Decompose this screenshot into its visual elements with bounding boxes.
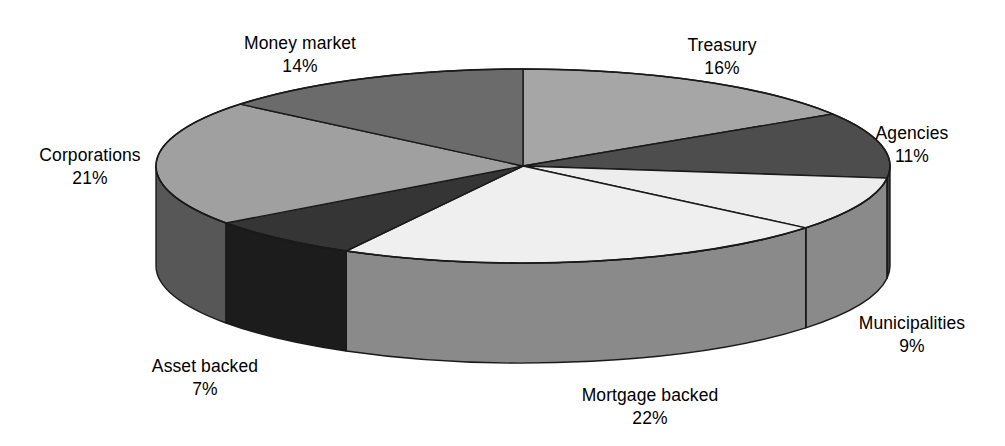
pie-label-name: Treasury [687, 34, 756, 57]
pie-label-value: 21% [39, 167, 140, 190]
pie-label-name: Money market [244, 32, 356, 55]
pie-label-value: 22% [582, 407, 719, 430]
pie-label-asset-backed: Asset backed7% [152, 355, 258, 401]
pie-label-agencies: Agencies11% [876, 122, 949, 168]
pie-label-name: Municipalities [859, 312, 965, 335]
pie-label-corporations: Corporations21% [39, 144, 140, 190]
pie-top-faces [156, 69, 890, 263]
pie-label-value: 9% [859, 335, 965, 358]
pie-label-name: Mortgage backed [582, 384, 719, 407]
pie-label-value: 16% [687, 57, 756, 80]
pie-label-name: Corporations [39, 144, 140, 167]
pie-chart-figure: Treasury16%Agencies11%Municipalities9%Mo… [0, 0, 1005, 446]
pie-label-value: 7% [152, 378, 258, 401]
pie-label-treasury: Treasury16% [687, 34, 756, 80]
pie-label-money-market: Money market14% [244, 32, 356, 78]
pie-label-mortgage-backed: Mortgage backed22% [582, 384, 719, 430]
pie-chart-graphic [0, 0, 1005, 446]
pie-label-value: 14% [244, 55, 356, 78]
pie-label-municipalities: Municipalities9% [859, 312, 965, 358]
pie-label-name: Agencies [876, 122, 949, 145]
pie-label-name: Asset backed [152, 355, 258, 378]
pie-label-value: 11% [876, 145, 949, 168]
